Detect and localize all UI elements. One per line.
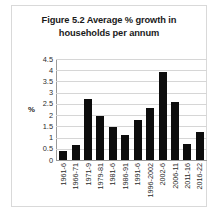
x-axis-tick-label: 2016-22 [194, 163, 205, 189]
x-tick-slot: 2006-11 [169, 163, 181, 212]
x-axis-tick-label: 1986-91 [120, 163, 131, 189]
y-axis-tick-label: 4.5 [43, 55, 53, 64]
x-axis-tick-label: 1979-81 [95, 163, 106, 189]
bar [84, 99, 92, 160]
bar [196, 132, 204, 161]
bar-slot [94, 59, 106, 160]
x-tick-slot: 1961-6 [57, 163, 69, 212]
x-tick-slot: 1981-6 [107, 163, 119, 212]
y-axis-tick-label: 0 [49, 156, 53, 165]
x-tick-slot: 1996-2002 [144, 163, 156, 212]
x-tick-slot: 1986-91 [119, 163, 131, 212]
bar-slot [119, 59, 131, 160]
y-axis-tick-label: 1.5 [43, 122, 53, 131]
bar [171, 102, 179, 160]
bar [121, 135, 129, 160]
x-axis-tick-label: 1966-71 [70, 163, 81, 189]
x-tick-slot: 2011-16 [181, 163, 193, 212]
bar [183, 144, 191, 160]
x-tick-slot: 2002-6 [156, 163, 168, 212]
x-tick-slot: 2016-22 [194, 163, 206, 212]
y-axis-tick-label: 2 [49, 111, 53, 120]
bar [134, 120, 142, 160]
chart-title-line-1: Figure 5.2 Average % growth in [20, 14, 198, 27]
bar [59, 151, 67, 160]
bar [72, 145, 80, 160]
bar-slot [132, 59, 144, 160]
bar-slot [82, 59, 94, 160]
bar [109, 127, 117, 160]
bar-slot [194, 59, 206, 160]
figure-container: Figure 5.2 Average % growth in household… [11, 5, 207, 207]
x-tick-slot: 1979-81 [94, 163, 106, 212]
bar-slot [144, 59, 156, 160]
y-axis-tick-label: 3.5 [43, 77, 53, 86]
bar-slot [169, 59, 181, 160]
x-axis-tick-label: 1961-6 [58, 163, 69, 185]
x-axis-tick-labels: 1961-61966-711971-91979-811981-61986-911… [56, 163, 207, 212]
bar [159, 72, 167, 160]
y-axis-tick-label: 4 [49, 66, 53, 75]
gridline [56, 160, 207, 161]
y-axis-tick-label: 1 [49, 133, 53, 142]
bar-series [56, 59, 207, 160]
y-axis-tick-label: 2.5 [43, 99, 53, 108]
x-axis-tick-label: 2006-11 [170, 163, 181, 189]
bar-slot [107, 59, 119, 160]
bar [146, 108, 154, 160]
x-tick-slot: 1991-6 [132, 163, 144, 212]
x-axis-tick-label: 1981-6 [107, 163, 118, 185]
bar-slot [57, 59, 69, 160]
x-axis-tick-label: 2002-6 [157, 163, 168, 185]
chart-title: Figure 5.2 Average % growth in household… [20, 14, 198, 39]
x-axis-tick-label: 1996-2002 [145, 163, 156, 197]
bar [96, 116, 104, 160]
bar-slot [69, 59, 81, 160]
bar-slot [181, 59, 193, 160]
y-axis-tick-labels: 00.511.522.533.544.5 [32, 53, 53, 166]
x-tick-slot: 1966-71 [69, 163, 81, 212]
chart-title-line-2: households per annum [20, 27, 198, 40]
x-axis-tick-label: 1971-9 [83, 163, 94, 185]
plot-area [56, 59, 207, 160]
x-axis-tick-label: 2011-16 [182, 163, 193, 189]
y-axis-tick-label: 0.5 [43, 144, 53, 153]
x-tick-slot: 1971-9 [82, 163, 94, 212]
bar-slot [156, 59, 168, 160]
x-axis-tick-label: 1991-6 [132, 163, 143, 185]
y-axis-tick-label: 3 [49, 88, 53, 97]
